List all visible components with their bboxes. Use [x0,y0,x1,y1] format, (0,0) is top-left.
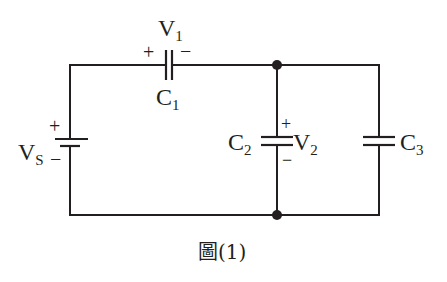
capacitor-c3: C3 [363,129,424,158]
vs-plus-sign: + [49,115,60,137]
junction-dot-top-icon [272,60,282,70]
c1-label: C1 [156,84,180,113]
figure-caption: 圖(1) [198,240,246,264]
circuit-diagram: + − VS + − V1 C1 + − C2 V2 C3 圖(1) [0,0,447,282]
c2-minus-sign: − [282,150,292,170]
v2-label: V2 [293,129,318,158]
c1-plus-sign: + [143,41,154,63]
vs-minus-sign: − [50,148,61,170]
v1-label: V1 [158,15,183,44]
vs-label: VS [18,139,44,168]
voltage-source-vs: + − VS [18,115,88,170]
junction-dot-bottom-icon [272,210,282,220]
wires [70,65,379,215]
c2-plus-sign: + [281,114,291,134]
capacitor-c2: + − C2 V2 [228,114,318,170]
c2-label: C2 [228,129,252,158]
c3-label: C3 [400,129,424,158]
